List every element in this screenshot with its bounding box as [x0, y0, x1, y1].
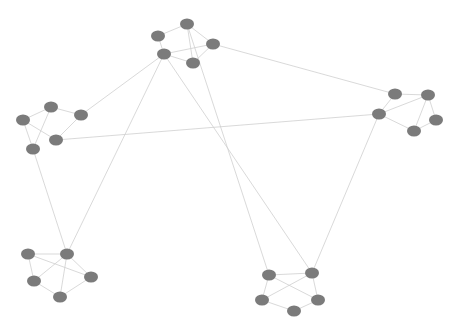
graph-node-t0[interactable] — [180, 19, 194, 30]
network-graph — [0, 0, 458, 330]
graph-node-br1[interactable] — [305, 268, 319, 279]
graph-node-t4[interactable] — [186, 58, 200, 69]
graph-edge — [187, 24, 193, 63]
graph-node-l2[interactable] — [16, 115, 30, 126]
graph-node-r4[interactable] — [407, 126, 421, 137]
graph-node-t2[interactable] — [206, 39, 220, 50]
graph-edge — [81, 54, 164, 115]
graph-node-bl2[interactable] — [84, 272, 98, 283]
graph-node-r0[interactable] — [388, 89, 402, 100]
graph-edge — [312, 114, 379, 273]
graph-node-br0[interactable] — [262, 270, 276, 281]
edge-layer — [23, 24, 436, 311]
graph-edge — [28, 254, 91, 277]
graph-node-br3[interactable] — [311, 295, 325, 306]
graph-edge — [164, 44, 213, 54]
graph-node-r2[interactable] — [372, 109, 386, 120]
graph-node-t3[interactable] — [157, 49, 171, 60]
graph-node-l3[interactable] — [49, 135, 63, 146]
graph-node-bl3[interactable] — [27, 276, 41, 287]
graph-edge — [414, 95, 428, 131]
graph-node-r3[interactable] — [429, 115, 443, 126]
graph-node-l0[interactable] — [44, 102, 58, 113]
graph-node-r1[interactable] — [421, 90, 435, 101]
graph-edge — [213, 44, 395, 94]
graph-edge — [164, 54, 312, 273]
node-layer — [16, 19, 443, 317]
graph-edge — [269, 275, 318, 300]
graph-node-br4[interactable] — [287, 306, 301, 317]
graph-node-bl4[interactable] — [53, 292, 67, 303]
graph-edge — [33, 149, 67, 254]
graph-node-t1[interactable] — [151, 31, 165, 42]
graph-node-l4[interactable] — [26, 144, 40, 155]
graph-node-br2[interactable] — [255, 295, 269, 306]
graph-edge — [67, 54, 164, 254]
graph-edge — [60, 254, 67, 297]
graph-node-bl1[interactable] — [60, 249, 74, 260]
graph-node-bl0[interactable] — [21, 249, 35, 260]
graph-node-l1[interactable] — [74, 110, 88, 121]
